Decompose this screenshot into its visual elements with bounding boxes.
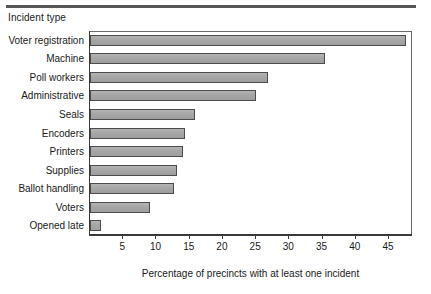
bar-track [90,105,195,124]
x-axis-ticks: 51015202530354045 [0,234,431,264]
x-tick-label: 45 [373,241,403,252]
x-tick-mark [388,234,389,239]
bar [90,90,256,101]
bar [90,53,325,64]
bar-track [90,198,150,217]
bar-category-label: Ballot handling [0,183,84,194]
bar-track [90,50,325,69]
bar-row: Administrative [0,87,431,106]
x-axis-title: Percentage of precincts with at least on… [89,268,412,280]
x-tick-label: 30 [273,241,303,252]
bar-category-label: Supplies [0,165,84,176]
bar-category-label: Opened late [0,220,84,231]
bar-row: Seals [0,105,431,124]
x-tick-label: 20 [207,241,237,252]
bar-row: Machine [0,50,431,69]
bar-category-label: Poll workers [0,72,84,83]
y-axis-title: Incident type [8,12,66,24]
bar [90,109,195,120]
bar-category-label: Printers [0,146,84,157]
bar-category-label: Encoders [0,128,84,139]
x-tick-label: 25 [240,241,270,252]
x-tick-mark [322,234,323,239]
bar-track [90,142,183,161]
bar [90,35,406,46]
x-tick-label: 40 [340,241,370,252]
x-tick-mark [155,234,156,239]
bar [90,220,101,231]
bar-row: Supplies [0,161,431,180]
bar-row: Printers [0,142,431,161]
top-rule-divider [6,5,416,8]
bar-row: Opened late [0,217,431,236]
x-tick-label: 10 [140,241,170,252]
bar-row: Voters [0,198,431,217]
bar-row: Poll workers [0,68,431,87]
bar-track [90,68,268,87]
bar-track [90,179,174,198]
bar [90,72,268,83]
x-tick-mark [122,234,123,239]
bar-track [90,87,256,106]
bar-track [90,161,177,180]
x-tick-mark [255,234,256,239]
x-tick-mark [189,234,190,239]
x-tick-label: 5 [107,241,137,252]
bar-chart-figure: Incident type Voter registrationMachineP… [0,0,431,294]
x-tick-label: 35 [307,241,337,252]
bar-row: Voter registration [0,31,431,50]
x-tick-label: 15 [174,241,204,252]
bar-track [90,31,406,50]
bar-category-label: Machine [0,53,84,64]
bar-track [90,124,185,143]
bar-row: Encoders [0,124,431,143]
bar-category-label: Voters [0,202,84,213]
bar-row: Ballot handling [0,179,431,198]
bar [90,202,150,213]
x-tick-mark [355,234,356,239]
x-tick-mark [288,234,289,239]
bar [90,146,183,157]
bar-category-label: Seals [0,109,84,120]
bar-category-label: Administrative [0,90,84,101]
bar-track [90,217,101,236]
bar-rows: Voter registrationMachinePoll workersAdm… [0,31,431,235]
x-tick-mark [222,234,223,239]
bar [90,183,174,194]
bar [90,128,185,139]
bar [90,165,177,176]
bar-category-label: Voter registration [0,35,84,46]
